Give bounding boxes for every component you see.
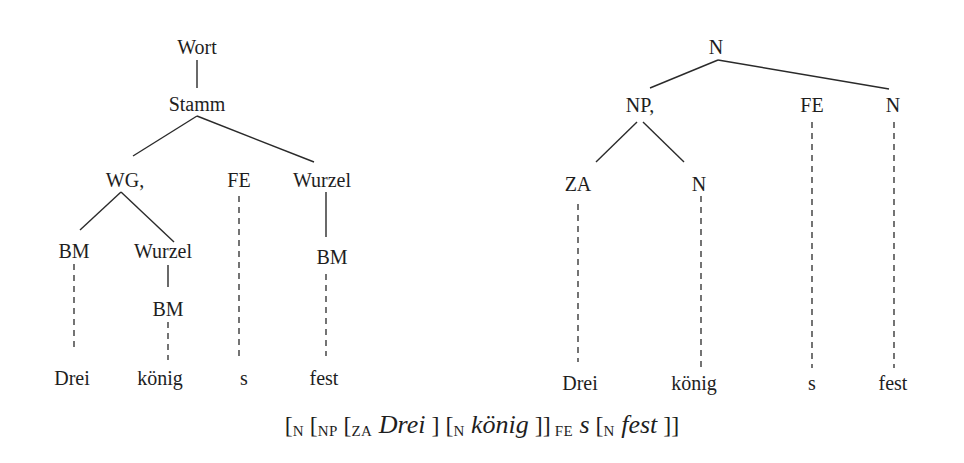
- left-tree: Wort Stamm WG, FE Wurzel BM Wurzel BM BM…: [54, 36, 351, 390]
- node-stamm: Stamm: [169, 93, 226, 115]
- node-bm: BM: [58, 240, 89, 262]
- node-n-root: N: [709, 36, 723, 58]
- node-n: N: [886, 94, 900, 116]
- node-wort: Wort: [177, 36, 217, 58]
- node-bm-right: BM: [316, 246, 347, 268]
- node-bm-inner: BM: [152, 298, 183, 320]
- leaf-fest: fest: [310, 367, 339, 389]
- word-koenig: könig: [465, 410, 529, 439]
- bracket: [: [338, 412, 352, 438]
- node-wurzel-inner: Wurzel: [134, 240, 192, 262]
- word-s: s: [573, 410, 590, 439]
- bracket-notation: [N [NP [ZA Drei ] [N könig ]] FE s [N fe…: [0, 410, 964, 440]
- edge-np-za: [596, 122, 637, 162]
- edge-stamm-wurzel: [197, 116, 314, 162]
- node-wurzel: Wurzel: [293, 169, 351, 191]
- edge-n-np: [650, 60, 718, 88]
- node-n-inner: N: [692, 173, 706, 195]
- edge-stamm-wg: [133, 116, 197, 156]
- node-fe: FE: [227, 169, 250, 191]
- word-fest: fest: [615, 410, 658, 439]
- bracket: ]]: [529, 412, 551, 438]
- label-n: N: [293, 423, 304, 439]
- bracket: [: [304, 412, 318, 438]
- leaf-fest: fest: [879, 372, 908, 394]
- word-drei: Drei: [372, 410, 425, 439]
- label-n: N: [604, 423, 615, 439]
- leaf-koenig: könig: [671, 372, 717, 395]
- node-fe: FE: [800, 94, 823, 116]
- bracket: ]]: [657, 412, 679, 438]
- leaf-s: s: [808, 372, 816, 394]
- label-za: ZA: [352, 423, 373, 439]
- label-fe: FE: [551, 423, 573, 439]
- leaf-s: s: [240, 367, 248, 389]
- edge-np-n: [643, 122, 684, 162]
- edge-wg-wurzel: [121, 192, 174, 242]
- node-wg: WG,: [106, 169, 144, 191]
- bracket: [: [285, 412, 293, 438]
- node-np: NP,: [626, 94, 654, 116]
- node-za: ZA: [565, 173, 592, 195]
- label-n: N: [453, 423, 464, 439]
- edge-wg-bm: [80, 192, 121, 230]
- leaf-drei: Drei: [54, 367, 90, 389]
- tree-diagrams: Wort Stamm WG, FE Wurzel BM Wurzel BM BM…: [0, 0, 964, 463]
- leaf-koenig: könig: [137, 367, 183, 390]
- right-tree: N NP, FE N ZA N Drei könig s fest: [562, 36, 908, 395]
- label-np: NP: [318, 423, 338, 439]
- bracket: ] [: [425, 412, 453, 438]
- bracket: [: [590, 412, 604, 438]
- edge-n-n: [718, 60, 889, 89]
- leaf-drei: Drei: [562, 372, 598, 394]
